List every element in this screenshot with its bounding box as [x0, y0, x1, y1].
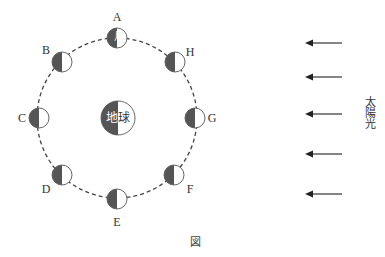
sunlight-arrow-icon — [305, 40, 342, 47]
moon-h — [165, 52, 185, 72]
moon-position-label-h: H — [186, 46, 195, 58]
moon-g — [185, 108, 205, 128]
sunlight-arrow-icon — [305, 74, 342, 81]
moon-position-label-d: D — [42, 183, 51, 195]
moon-e — [107, 189, 127, 209]
moon-position-label-a: A — [113, 11, 122, 23]
earth-label-dark: 地 — [106, 111, 118, 125]
moon-position-label-b: B — [42, 44, 50, 56]
moon-phase-diagram — [0, 0, 385, 257]
sunlight-label: 太陽光 — [361, 96, 375, 129]
sunlight-arrow-icon — [305, 111, 342, 118]
earth-label-light: 球 — [118, 111, 130, 125]
moon-d — [52, 165, 72, 185]
moon-position-label-e: E — [113, 216, 120, 228]
sunlight-arrow-icon — [305, 191, 342, 198]
moon-b — [52, 52, 72, 72]
moon-label: 月 — [114, 32, 124, 42]
moon-c — [29, 108, 49, 128]
sunlight-arrow-icon — [305, 151, 342, 158]
figure-caption: 図 — [190, 233, 201, 249]
moon-position-label-f: F — [187, 183, 194, 195]
moon-f — [164, 165, 184, 185]
moon-position-label-g: G — [208, 112, 217, 124]
moon-position-label-c: C — [18, 112, 26, 124]
sunlight-arrows — [305, 40, 342, 198]
earth-label: 地球 — [106, 112, 130, 124]
